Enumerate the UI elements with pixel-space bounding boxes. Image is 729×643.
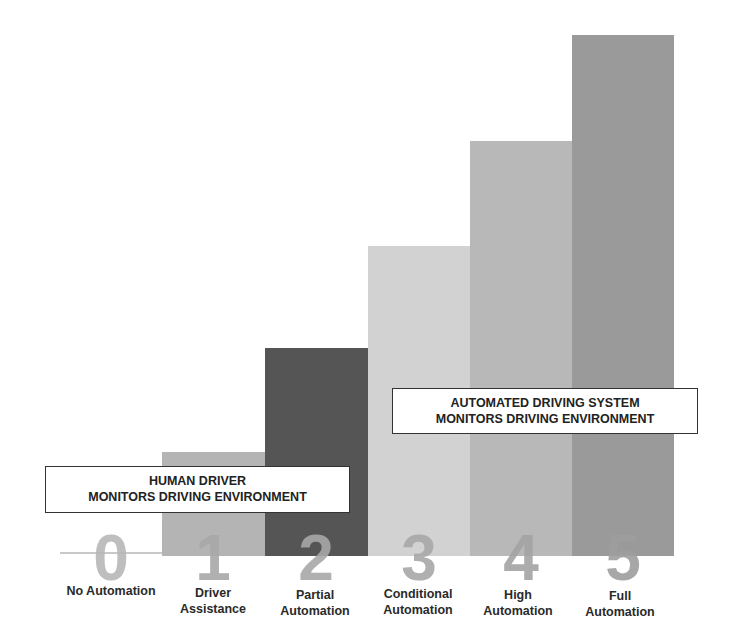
level-label-2-line1: Partial (255, 587, 375, 603)
level-label-2-line2: Automation (255, 603, 375, 619)
human-driver-box: HUMAN DRIVER MONITORS DRIVING ENVIRONMEN… (45, 466, 350, 513)
level-digit-4: 4 (470, 526, 572, 590)
level-digit-5: 5 (572, 526, 674, 590)
bar-level-4 (470, 141, 572, 556)
level-digit-3: 3 (368, 526, 470, 590)
level-digit-2: 2 (265, 526, 367, 590)
automated-system-box-line2: MONITORS DRIVING ENVIRONMENT (393, 411, 697, 427)
level-digit-0: 0 (60, 526, 162, 590)
level-digit-1: 1 (162, 526, 264, 590)
automated-system-box: AUTOMATED DRIVING SYSTEM MONITORS DRIVIN… (392, 388, 698, 434)
automated-system-box-line1: AUTOMATED DRIVING SYSTEM (393, 395, 697, 411)
level-label-5: Full Automation (560, 588, 680, 620)
level-label-2: Partial Automation (255, 587, 375, 619)
bar-level-5 (572, 35, 674, 556)
level-label-5-line1: Full (560, 588, 680, 604)
level-label-5-line2: Automation (560, 604, 680, 620)
human-driver-box-line1: HUMAN DRIVER (46, 473, 349, 489)
human-driver-box-line2: MONITORS DRIVING ENVIRONMENT (46, 489, 349, 505)
